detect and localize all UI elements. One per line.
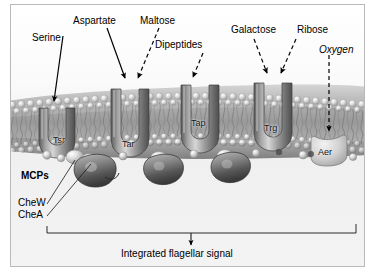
label-galactose: Galactose [231,25,276,35]
label-dipeptides: Dipeptides [155,40,202,50]
label-receptor-tsr: Tsr [53,136,65,145]
label-integrated-flagellar-signal: Integrated flagellar signal [121,249,233,259]
label-receptor-tar: Tar [122,140,135,149]
figure-frame: Serine Aspartate Maltose Dipeptides Gala… [10,4,365,267]
label-ribose: Ribose [297,25,328,35]
label-chea: CheA [18,210,43,220]
label-receptor-aer: Aer [318,148,332,157]
label-serine: Serine [32,33,61,43]
label-receptor-tap: Tap [191,119,206,128]
label-oxygen: Oxygen [319,45,353,55]
label-receptor-trg: Trg [264,124,277,133]
label-maltose: Maltose [140,16,175,26]
chemotaxis-figure: Serine Aspartate Maltose Dipeptides Gala… [0,0,375,272]
label-chew: CheW [18,198,46,208]
label-aspartate: Aspartate [73,16,116,26]
label-mcps: MCPs [21,171,49,181]
